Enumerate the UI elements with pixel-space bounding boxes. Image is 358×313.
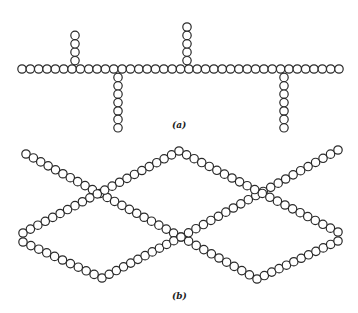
branch-bead (280, 98, 288, 106)
branch-bead (114, 107, 122, 115)
branch-bead (114, 115, 122, 123)
main-chain-bead (293, 65, 301, 73)
branch-bead (114, 73, 122, 81)
crosslinked-chain-bead (184, 237, 192, 245)
branch-bead (280, 107, 288, 115)
main-chain-bead (68, 65, 76, 73)
branch-bead (183, 31, 191, 39)
branch-bead (183, 56, 191, 64)
polymer-diagram (0, 0, 358, 313)
crosslinked-chain-bead (90, 270, 98, 278)
main-chain-bead (310, 65, 318, 73)
main-chain-bead (210, 65, 218, 73)
main-chain-bead (335, 65, 343, 73)
crosslinked-chain-bead (19, 238, 27, 246)
main-chain-bead (34, 65, 42, 73)
main-chain-bead (76, 65, 84, 73)
crosslinked-chain-bead (58, 256, 66, 264)
main-chain-bead (51, 65, 59, 73)
crosslinked-chain-bead (74, 263, 82, 271)
crosslinked-chain-bead (215, 254, 223, 262)
panel-b-label: (b) (172, 291, 187, 301)
crosslinked-chain-bead (207, 250, 215, 258)
panel-a-label: (a) (172, 120, 186, 130)
branch-bead (280, 124, 288, 132)
branch-bead (280, 115, 288, 123)
main-chain-bead (235, 65, 243, 73)
main-chain-bead (176, 65, 184, 73)
branch-bead (114, 124, 122, 132)
main-chain-bead (135, 65, 143, 73)
crosslinked-chain-bead (222, 258, 230, 266)
main-chain-bead (260, 65, 268, 73)
main-chain-bead (268, 65, 276, 73)
branch-bead (114, 90, 122, 98)
crosslinked-chain-bead (66, 259, 74, 267)
crosslinked-chain-bead (82, 267, 90, 275)
crosslinked-chain-bead (245, 271, 253, 279)
main-chain-bead (243, 65, 251, 73)
main-chain-bead (326, 65, 334, 73)
crosslinked-chain-bead (35, 245, 43, 253)
branch-bead (183, 23, 191, 31)
main-chain-bead (118, 65, 126, 73)
main-chain-bead (226, 65, 234, 73)
branch-bead (280, 73, 288, 81)
main-chain-bead (193, 65, 201, 73)
branch-bead (71, 40, 79, 48)
main-chain-bead (276, 65, 284, 73)
crosslinked-chain-bead (334, 146, 342, 154)
main-chain-bead (160, 65, 168, 73)
branch-bead (71, 31, 79, 39)
main-chain-bead (101, 65, 109, 73)
main-chain-bead (60, 65, 68, 73)
main-chain-bead (143, 65, 151, 73)
main-chain-bead (151, 65, 159, 73)
branch-bead (71, 48, 79, 56)
main-chain-bead (26, 65, 34, 73)
crosslinked-chain-bead (192, 241, 200, 249)
crosslinked-chain-bead (50, 252, 58, 260)
branch-bead (183, 48, 191, 56)
main-chain-bead (110, 65, 118, 73)
branch-bead (114, 82, 122, 90)
branch-bead (71, 56, 79, 64)
branch-bead (280, 82, 288, 90)
main-chain-bead (201, 65, 209, 73)
main-chain-bead (18, 65, 26, 73)
crosslinked-chain-bead (238, 266, 246, 274)
crosslinked-chain-bead (334, 237, 342, 245)
crosslinked-chain-bead (334, 228, 342, 236)
branch-bead (280, 90, 288, 98)
crosslinked-chain-bead (200, 245, 208, 253)
main-chain-bead (93, 65, 101, 73)
crosslinked-chain-bead (27, 241, 35, 249)
main-chain-bead (85, 65, 93, 73)
main-chain-bead (301, 65, 309, 73)
main-chain-bead (185, 65, 193, 73)
crosslinked-chain-bead (43, 249, 51, 257)
branch-bead (114, 98, 122, 106)
main-chain-bead (43, 65, 51, 73)
main-chain-bead (318, 65, 326, 73)
branch-bead (183, 40, 191, 48)
main-chain-bead (285, 65, 293, 73)
main-chain-bead (218, 65, 226, 73)
main-chain-bead (168, 65, 176, 73)
crosslinked-chain-bead (230, 262, 238, 270)
main-chain-bead (251, 65, 259, 73)
main-chain-bead (126, 65, 134, 73)
